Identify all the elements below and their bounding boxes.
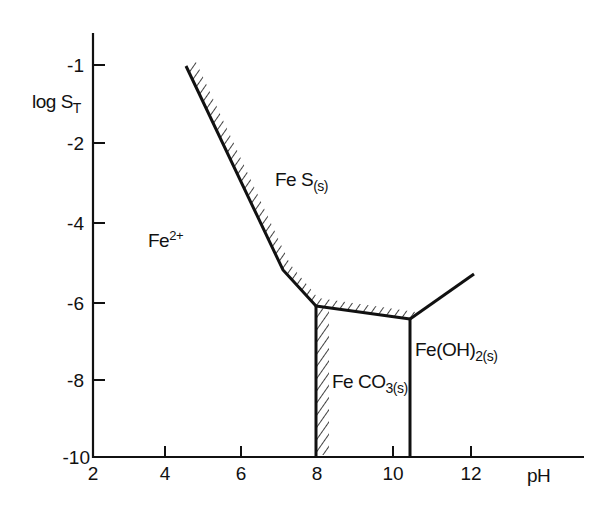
x-tick-label: 12 [460,464,481,483]
y-ticks [93,65,105,380]
region-label-fes: Fe S(s) [275,170,328,193]
x-tick-label: 6 [236,464,247,483]
region-label-feco3: Fe CO3(s) [332,372,408,395]
x-tick-label: 8 [312,464,323,483]
y-tick-label: -2 [44,134,84,153]
y-axis-label: log ST [32,92,81,115]
y-tick-label: -8 [44,371,84,390]
region-label-fe2plus: Fe2+ [148,229,183,250]
y-tick-label: -1 [44,56,84,75]
y-tick-label: -4 [44,214,84,233]
x-tick-label: 4 [160,464,171,483]
x-axis-label: pH [527,466,550,485]
hatch-feco3-left [316,306,329,455]
x-tick-label: 10 [382,464,403,483]
region-label-feoh2: Fe(OH)2(s) [415,340,497,363]
x-tick-label: 2 [88,464,99,483]
y-tick-label: -6 [44,294,84,313]
y-tick-label: -10 [50,448,90,467]
phase-diagram-plot [0,0,613,518]
boundary-feoh2-fes [410,274,474,319]
